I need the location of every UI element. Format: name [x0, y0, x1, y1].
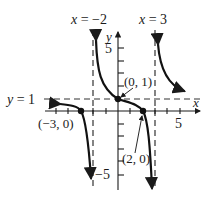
point-label-neg3-0: (−3, 0): [38, 116, 74, 131]
point-neg3-0: [78, 108, 84, 114]
axes: [45, 32, 200, 190]
right-branch: [158, 44, 184, 91]
labels: x = −2 x = 3 y = 1 y x 5 −5 5 (0, 1) (−3…: [5, 12, 199, 182]
pointer-2-0: [135, 116, 142, 153]
x-tick-label-5: 5: [175, 116, 182, 131]
asymptote-label-x-3: x = 3: [138, 12, 167, 27]
asymptotes: [44, 30, 200, 190]
point-label-2-0: (2, 0): [122, 151, 150, 166]
pointer-0-1: [121, 88, 133, 97]
point-0-1: [115, 96, 121, 102]
y-tick-label-5: 5: [105, 41, 112, 56]
point-label-0-1: (0, 1): [124, 74, 152, 89]
rational-function-graph: x = −2 x = 3 y = 1 y x 5 −5 5 (0, 1) (−3…: [0, 0, 210, 199]
asymptote-label-x-neg2: x = −2: [70, 12, 107, 27]
point-2-0: [140, 108, 146, 114]
y-tick-label-neg5: −5: [95, 167, 110, 182]
x-axis-label: x: [192, 95, 199, 110]
asymptote-label-y-1: y = 1: [5, 92, 35, 107]
